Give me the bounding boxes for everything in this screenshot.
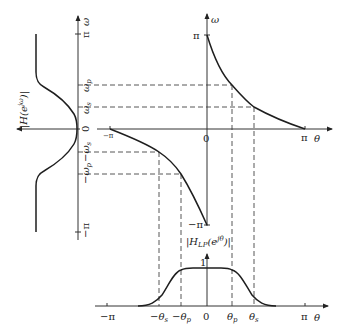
left-omega-s-tick: ωs: [80, 102, 93, 114]
dashed-guides: [78, 85, 254, 306]
left-omega-label: ω: [80, 18, 91, 26]
bottom-neg-theta-s-tick: −θs: [150, 311, 168, 324]
bottom-theta-label: θ: [314, 312, 320, 323]
bottom-theta-s-tick: θs: [249, 311, 259, 324]
left-neg-omega-p-tick: −ωp: [80, 162, 93, 184]
main-pi-x-tick: π: [301, 132, 308, 143]
main-neg-pi-x-tick: −π: [103, 132, 114, 140]
bottom-plot-title: |HLP(ejθ)|: [186, 235, 231, 249]
bottom-pi-tick: π: [301, 311, 308, 322]
left-neg-pi-tick: −π: [80, 223, 91, 238]
bottom-neg-pi-tick: −π: [100, 311, 115, 322]
main-pi-y-tick: π: [193, 30, 200, 41]
bottom-theta-p-tick: θp: [227, 311, 238, 324]
bottom-response-plot: |HLP(ejθ)| 1 −π −θs −θp 0 θp θs π θ: [95, 235, 328, 324]
bottom-zero-tick: 0: [203, 311, 209, 322]
left-plot-title: |H(ejω)|: [17, 91, 30, 128]
left-response-curve: [36, 34, 77, 232]
main-neg-pi-y-tick: −π: [188, 219, 203, 230]
left-omega-p-tick: ωp: [80, 79, 93, 92]
left-neg-omega-s-tick: −ωs: [80, 141, 93, 162]
bilinear-mapping-figure: ω π 0 π θ −π −π π ω ωp ωs 0 −ωs: [0, 0, 340, 334]
bottom-neg-theta-p-tick: −θp: [172, 311, 191, 324]
bottom-one-label: 1: [200, 257, 206, 268]
left-response-plot: π ω ωp ωs 0 −ωs −ωp −π |H(ejω)|: [17, 16, 93, 240]
main-plot: ω π 0 π θ −π −π: [97, 14, 332, 230]
left-zero-tick: 0: [80, 126, 91, 132]
mapping-curve-positive: [207, 35, 305, 129]
left-pi-tick: π: [80, 31, 91, 38]
main-theta-label: θ: [314, 133, 320, 144]
main-origin-label: 0: [203, 133, 209, 144]
mapping-curve-negative: [110, 129, 207, 225]
main-omega-label: ω: [211, 14, 219, 25]
